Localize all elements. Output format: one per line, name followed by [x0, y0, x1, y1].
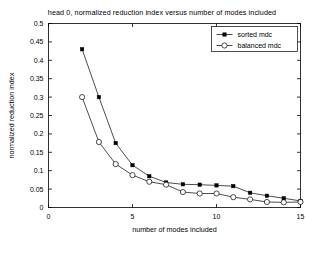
data-point-marker — [231, 195, 236, 200]
data-point-marker — [215, 184, 218, 187]
data-point-marker — [198, 183, 201, 186]
data-point-marker — [248, 197, 253, 202]
data-point-marker — [114, 141, 117, 144]
series-line-1 — [82, 97, 300, 202]
legend-marker-1 — [222, 43, 227, 48]
data-point-marker — [96, 139, 101, 144]
data-point-marker — [214, 191, 219, 196]
data-point-marker — [264, 199, 269, 204]
data-point-marker — [197, 191, 202, 196]
y-axis-tick-label: 0.1 — [34, 167, 44, 174]
data-point-marker — [181, 183, 184, 186]
data-point-marker — [148, 175, 151, 178]
data-point-marker — [265, 194, 268, 197]
legend-label-1: balanced mdc — [238, 42, 282, 49]
y-axis-tick-label: 0.05 — [30, 186, 44, 193]
y-axis-tick-label: 0.2 — [34, 130, 44, 137]
y-axis-tick-label: 0 — [40, 204, 44, 211]
data-point-marker — [164, 182, 169, 187]
figure-container: head 0, normalized reduction index versu… — [0, 0, 324, 254]
plot-area: 00.050.10.150.20.250.30.350.40.450.50510… — [0, 0, 324, 254]
data-point-marker — [80, 95, 85, 100]
legend-marker-0 — [223, 33, 226, 36]
data-point-marker — [113, 161, 118, 166]
series-line-0 — [82, 49, 300, 201]
data-point-marker — [130, 173, 135, 178]
x-axis-tick-label: 5 — [131, 213, 135, 220]
data-point-marker — [147, 179, 152, 184]
y-axis-tick-label: 0.3 — [34, 94, 44, 101]
x-axis-tick-label: 15 — [297, 213, 305, 220]
data-point-marker — [80, 48, 83, 51]
y-axis-tick-label: 0.25 — [30, 112, 44, 119]
y-axis-tick-label: 0.15 — [30, 149, 44, 156]
y-axis-tick-label: 0.35 — [30, 75, 44, 82]
y-axis-label: normalized reduction index — [7, 72, 16, 158]
x-axis-tick-label: 10 — [213, 213, 221, 220]
data-point-marker — [180, 189, 185, 194]
data-point-marker — [131, 163, 134, 166]
data-point-marker — [281, 200, 286, 205]
x-axis-tick-label: 0 — [47, 213, 51, 220]
data-point-marker — [97, 95, 100, 98]
y-axis-tick-label: 0.5 — [34, 20, 44, 27]
x-axis-label: number of modes included — [132, 225, 217, 234]
data-point-marker — [298, 199, 303, 204]
data-point-marker — [248, 191, 251, 194]
legend-label-0: sorted mdc — [238, 31, 273, 38]
y-axis-tick-label: 0.45 — [30, 38, 44, 45]
y-axis-tick-label: 0.4 — [34, 57, 44, 64]
data-point-marker — [232, 184, 235, 187]
